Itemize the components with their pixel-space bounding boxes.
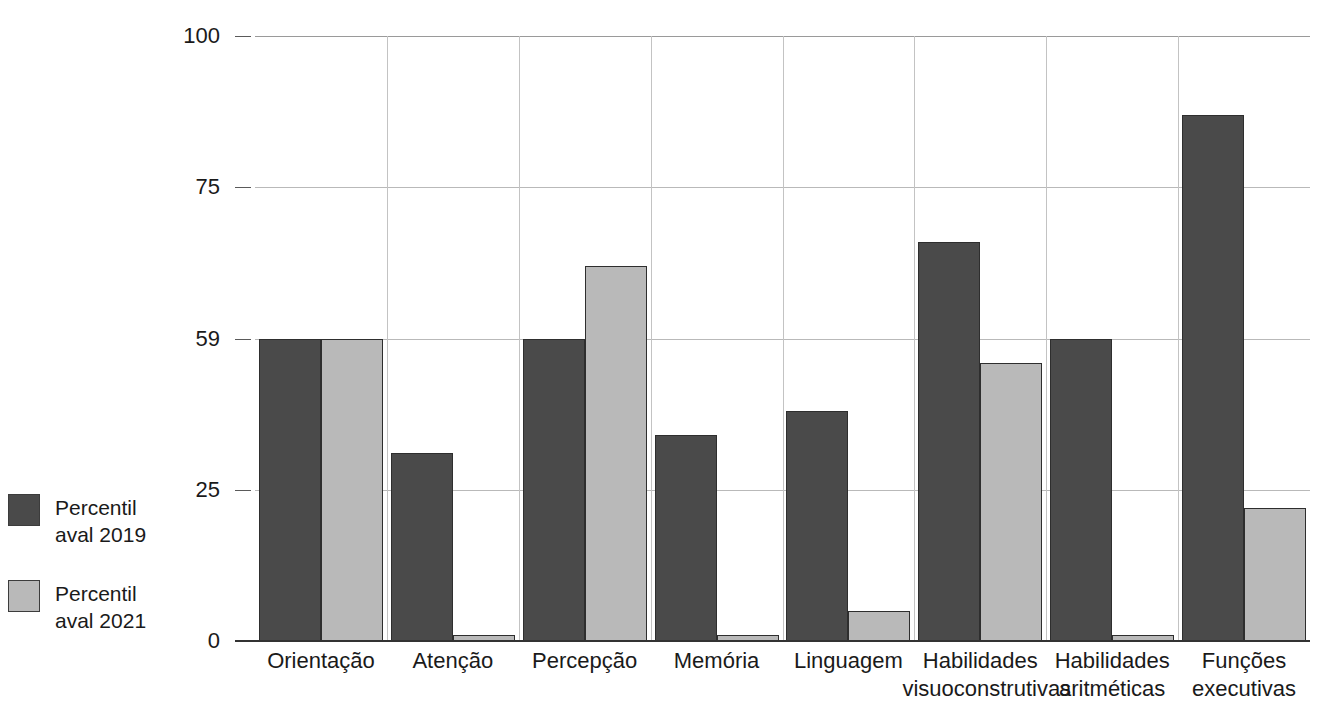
chart-legend: Percentil aval 2019 Percentil aval 2021 <box>8 494 178 666</box>
y-tick-label-59: 59 <box>160 328 220 350</box>
bar-2019-3 <box>655 435 717 641</box>
bar-2021-0 <box>321 339 383 642</box>
bars-layer <box>255 36 1310 641</box>
x-axis-label-7: Funções executivas <box>1166 647 1321 703</box>
y-tick-mark-59 <box>235 339 251 340</box>
bar-2021-4 <box>848 611 910 641</box>
plot-area <box>255 36 1310 641</box>
legend-swatch-2021 <box>8 580 40 612</box>
bar-2019-4 <box>786 411 848 641</box>
bar-2021-2 <box>585 266 647 641</box>
bar-2019-2 <box>523 339 585 642</box>
y-tick-mark-100 <box>235 36 251 37</box>
bar-2019-7 <box>1182 115 1244 641</box>
bar-chart: Percentil aval 2019 Percentil aval 2021 … <box>0 0 1321 720</box>
legend-swatch-2019 <box>8 494 40 526</box>
x-axis-line <box>235 640 1310 642</box>
legend-label-2021: Percentil aval 2021 <box>55 580 146 634</box>
y-tick-mark-75 <box>235 187 251 188</box>
bar-2019-1 <box>391 453 453 641</box>
y-tick-label-25: 25 <box>160 479 220 501</box>
bar-2019-6 <box>1050 339 1112 642</box>
bar-2019-0 <box>259 339 321 642</box>
bar-2019-5 <box>918 242 980 641</box>
legend-item-2021: Percentil aval 2021 <box>8 580 178 634</box>
y-tick-label-100: 100 <box>160 25 220 47</box>
bar-2021-5 <box>980 363 1042 641</box>
y-tick-label-75: 75 <box>160 176 220 198</box>
x-axis-labels: OrientaçãoAtençãoPercepçãoMemóriaLinguag… <box>255 647 1310 717</box>
y-tick-label-0: 0 <box>160 630 220 652</box>
legend-label-2019: Percentil aval 2019 <box>55 494 146 548</box>
bar-2021-7 <box>1244 508 1306 641</box>
legend-item-2019: Percentil aval 2019 <box>8 494 178 548</box>
y-tick-mark-25 <box>235 490 251 491</box>
